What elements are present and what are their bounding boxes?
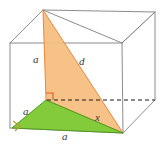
label-edge-a-vertical: a [33,54,39,65]
label-diagonal-x: x [95,112,100,123]
cube-edge-top-right-back [122,12,155,43]
cube-edge-vertical-front [122,43,123,133]
geometry-figure: a d a x a [0,0,165,147]
cube-edge-top-front-left [10,10,43,43]
cube-edge-top-rear [43,10,155,12]
label-edge-a-left: a [23,106,29,117]
label-diagonal-d: d [79,56,85,67]
label-edge-a-bottom: a [62,131,68,142]
cube-edge-bottom-right [123,100,155,133]
cube-diagram [0,0,165,147]
